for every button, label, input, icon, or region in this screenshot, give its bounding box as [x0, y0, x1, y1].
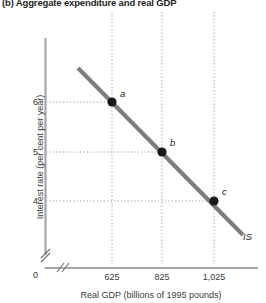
x-tick-label-825: 825: [154, 272, 169, 282]
data-point-b: [157, 147, 166, 156]
point-label-b: b: [170, 137, 175, 148]
x-tick-label-625: 625: [104, 272, 119, 282]
x-axis-title: Real GDP (billions of 1995 pounds): [44, 290, 258, 300]
data-point-a: [107, 97, 116, 106]
point-label-c: c: [222, 186, 227, 197]
x-tick-label-1025: 1,025: [203, 272, 226, 282]
origin-label: 0: [33, 270, 38, 280]
point-label-a: a: [120, 88, 125, 99]
data-point-c: [209, 196, 218, 205]
y-axis-title: Interest rate (per cent per year): [35, 62, 45, 252]
chart-figure: (b) Aggregate expenditure and real GDP: [0, 0, 266, 303]
is-curve-label: IS: [243, 231, 252, 242]
